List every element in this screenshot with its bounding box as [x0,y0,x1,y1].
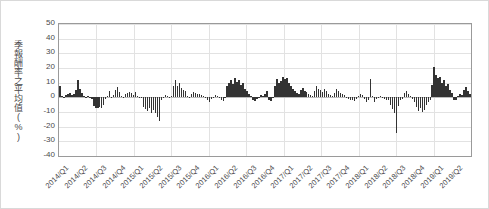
bar [270,97,271,101]
y-tick-label: 40 [46,34,55,42]
y-tick-label: 0 [51,92,55,100]
y-tick-label: 20 [46,63,55,71]
bar [159,97,160,120]
plot-area [58,23,472,157]
x-axis-tick-labels: 2014/Q12014/Q22014/Q32014/Q42015/Q12015/… [58,159,472,207]
bar [430,97,431,99]
y-tick-label: -20 [43,122,55,130]
y-tick-label: -40 [43,151,55,159]
bar-series [59,24,471,156]
bar [368,97,369,100]
horizontal-gridline [59,156,471,157]
bar [356,97,357,98]
y-axis-title: 季報酬率之平均值(%) [11,27,25,155]
bar [469,94,470,97]
bar [161,97,162,100]
bar [370,79,371,97]
y-tick-label: 50 [46,19,55,27]
y-tick-label: 10 [46,78,55,86]
y-axis-tick-labels: 50403020100-10-20-30-40 [25,23,55,157]
bar [402,97,403,98]
y-tick-label: 30 [46,48,55,56]
bar [105,97,106,98]
bar [223,97,224,101]
y-tick-label: -30 [43,136,55,144]
y-tick-label: -10 [43,107,55,115]
bar [455,97,456,100]
chart-figure: 季報酬率之平均值(%) 50403020100-10-20-30-40 2014… [0,0,489,209]
